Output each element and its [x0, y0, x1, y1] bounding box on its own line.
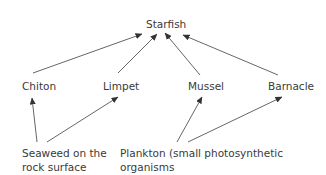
node-starfish: Starfish: [146, 17, 186, 31]
seaweed-label-line-2: rock surface: [22, 160, 107, 174]
arrow-seaweed-to-chiton: [32, 98, 37, 142]
arrow-mussel-to-starfish: [165, 33, 200, 75]
node-chiton: Chiton: [22, 79, 56, 93]
arrow-plankton-to-barnacle: [188, 97, 282, 142]
arrow-barnacle-to-starfish: [183, 35, 278, 75]
node-plankton: Plankton (small photosynthetic organisms…: [120, 146, 326, 175]
arrow-seaweed-to-limpet: [47, 97, 118, 142]
plankton-label-line-2: and animals which feed on them): [120, 174, 326, 175]
node-barnacle: Barnacle: [268, 79, 314, 93]
plankton-label-line-1: Plankton (small photosynthetic organisms: [120, 146, 326, 174]
food-web-diagram: Starfish Chiton Limpet Mussel Barnacle S…: [0, 0, 326, 175]
seaweed-label-line-1: Seaweed on the: [22, 146, 107, 160]
arrow-chiton-to-starfish: [33, 34, 142, 73]
node-limpet: Limpet: [103, 79, 139, 93]
node-mussel: Mussel: [188, 79, 224, 93]
arrow-limpet-to-starfish: [118, 34, 157, 73]
arrow-plankton-to-mussel: [177, 97, 202, 142]
node-seaweed: Seaweed on the rock surface: [22, 146, 107, 174]
